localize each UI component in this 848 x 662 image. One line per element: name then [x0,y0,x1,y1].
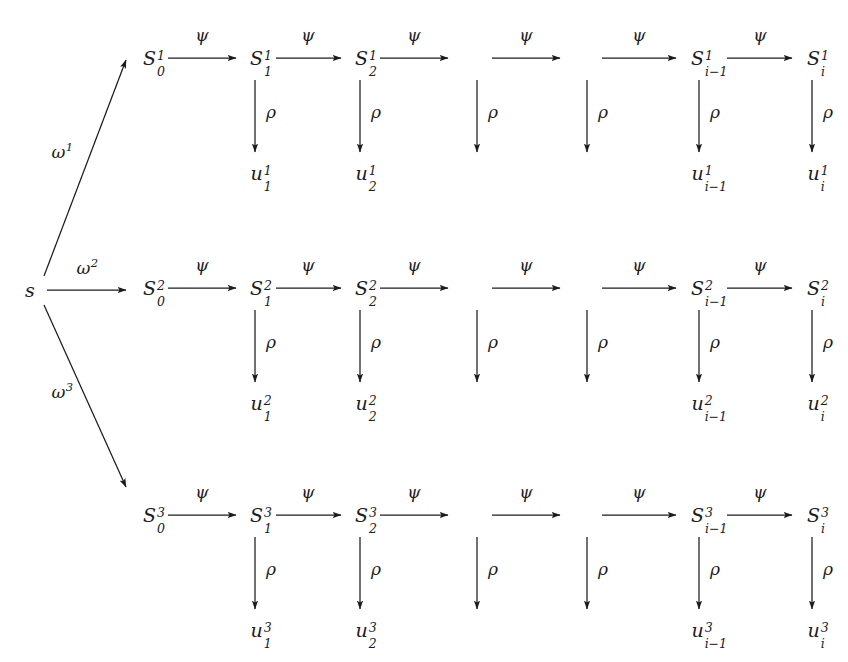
psi-label-row3-e5: ψ [753,484,766,501]
subscript: 2 [369,638,377,651]
glyph-base: S [250,504,263,526]
state-node-Ski1-row2: S2i−1 [691,279,704,298]
superscript: 1 [264,165,272,178]
glyph-base: u [355,162,367,184]
state-node-Sk2-row1: S12 [355,49,368,68]
output-node-uki1-row2: u2i−1 [691,394,703,413]
psi-label-row3-e0: ψ [195,484,208,501]
psi-label-row2-e5: ψ [753,257,766,274]
subscript: 0 [157,66,165,79]
branch-label-omega-2: ω2 [76,260,97,277]
branch-label-omega-1: ω1 [51,144,72,161]
psi-label-row2-e3: ψ [519,257,532,274]
psi-label-row2-e4: ψ [632,257,645,274]
psi-label-row2-e1: ψ [301,257,314,274]
glyph-base: S [691,277,704,299]
branch-arrow-omega-1 [44,60,126,276]
state-node-Ski-row1: S1i [807,49,820,68]
glyph-base: u [355,392,367,414]
glyph-base: S [691,47,704,69]
omega-glyph: ω [51,382,65,402]
output-node-uki-row1: u1i [807,164,819,183]
superscript: 3 [264,507,272,520]
psi-label-row3-e1: ψ [301,484,314,501]
output-node-uk1-row2: u21 [250,394,262,413]
output-node-uk2-row2: u22 [355,394,367,413]
output-node-uki1-row3: u3i−1 [691,621,703,640]
superscript: 1 [705,165,713,178]
superscript: 3 [264,622,272,635]
psi-label-row1-e3: ψ [519,27,532,44]
superscript: 2 [264,395,272,408]
output-node-uk2-row3: u32 [355,621,367,640]
superscript: 2 [157,280,165,293]
subscript: i−1 [705,523,727,536]
rho-label-k2-row3: ρ [371,561,381,578]
superscript: 3 [705,622,713,635]
subscript: i [821,411,825,424]
glyph-base: S [355,277,368,299]
subscript: 0 [157,523,165,536]
output-node-uk1-row3: u31 [250,621,262,640]
superscript: 2 [705,280,713,293]
psi-label-row3-e3: ψ [519,484,532,501]
output-node-uki-row2: u2i [807,394,819,413]
superscript: 3 [369,507,377,520]
rho-label-ki-row1: ρ [823,104,833,121]
subscript: 2 [369,411,377,424]
glyph-base: S [807,47,820,69]
glyph-base: u [691,392,703,414]
glyph-base: u [807,392,819,414]
state-node-Ski1-row3: S3i−1 [691,506,704,525]
omega-superscript: 2 [91,256,98,270]
omega-superscript: 3 [66,380,73,394]
glyph-base: S [250,47,263,69]
state-node-Ski-row3: S3i [807,506,820,525]
subscript: 0 [157,296,165,309]
diagram-vector-layer [0,0,848,662]
omega-glyph: ω [51,142,65,162]
rho-label-gap1-row3: ρ [488,561,498,578]
psi-label-row1-e4: ψ [632,27,645,44]
state-node-Sk0-row2: S20 [143,279,156,298]
psi-label-row3-e2: ψ [407,484,420,501]
subscript: i [821,181,825,194]
superscript: 3 [369,622,377,635]
glyph-base: u [691,162,703,184]
glyph-base: S [807,504,820,526]
subscript: 2 [369,523,377,536]
glyph-base: S [807,277,820,299]
subscript: 1 [264,523,272,536]
subscript: 2 [369,296,377,309]
psi-label-row3-e4: ψ [632,484,645,501]
glyph-base: u [691,619,703,641]
root-node-s: s [25,281,35,300]
subscript: 1 [264,296,272,309]
rho-label-ki1-row3: ρ [710,561,720,578]
subscript: i [821,523,825,536]
superscript: 1 [264,50,272,63]
glyph-base: S [355,504,368,526]
rho-label-gap2-row1: ρ [598,104,608,121]
glyph-base: u [250,619,262,641]
subscript: i [821,638,825,651]
subscript: i−1 [705,296,727,309]
superscript: 1 [821,165,829,178]
rho-label-ki-row2: ρ [823,334,833,351]
state-node-Sk1-row3: S31 [250,506,263,525]
superscript: 3 [821,622,829,635]
glyph-base: S [250,277,263,299]
psi-label-row1-e2: ψ [407,27,420,44]
psi-label-row2-e2: ψ [407,257,420,274]
rho-label-k2-row1: ρ [371,104,381,121]
subscript: 1 [264,411,272,424]
glyph-base: S [143,504,156,526]
state-node-Sk1-row2: S21 [250,279,263,298]
branch-label-omega-3: ω3 [51,384,72,401]
state-node-Ski-row2: S2i [807,279,820,298]
superscript: 1 [369,165,377,178]
subscript: i−1 [705,66,727,79]
subscript: i−1 [705,638,727,651]
superscript: 2 [821,395,829,408]
glyph-base: u [250,162,262,184]
